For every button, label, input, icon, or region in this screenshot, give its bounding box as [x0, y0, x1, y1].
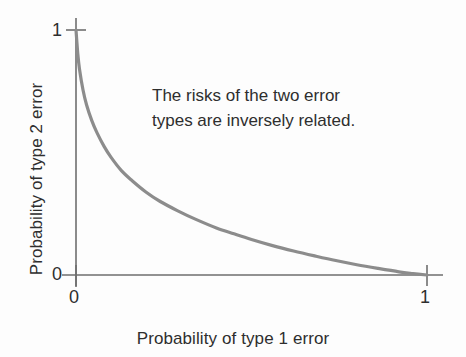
x-tick-label-left: 0 — [69, 288, 79, 306]
data-curve — [76, 30, 427, 275]
chart-annotation: The risks of the two error types are inv… — [152, 84, 402, 133]
annotation-line-2: types are inversely related. — [152, 109, 402, 134]
x-tick-label-right: 1 — [420, 288, 430, 306]
y-tick-label-bottom: 0 — [52, 265, 62, 283]
chart-figure: 1 0 0 1 Probability of type 1 error Prob… — [0, 0, 466, 357]
x-axis-title: Probability of type 1 error — [0, 329, 466, 349]
annotation-line-1: The risks of the two error — [152, 84, 402, 109]
y-tick-label-top: 1 — [52, 21, 62, 39]
y-axis-title: Probability of type 2 error — [27, 69, 49, 289]
